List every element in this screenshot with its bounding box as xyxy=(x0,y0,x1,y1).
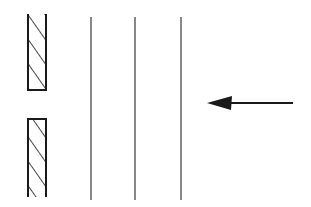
lower-barrier-wall xyxy=(28,119,46,197)
double-slit-diagram xyxy=(0,0,311,207)
left-arrow-icon xyxy=(207,96,293,110)
upper-barrier-wall xyxy=(28,14,46,90)
